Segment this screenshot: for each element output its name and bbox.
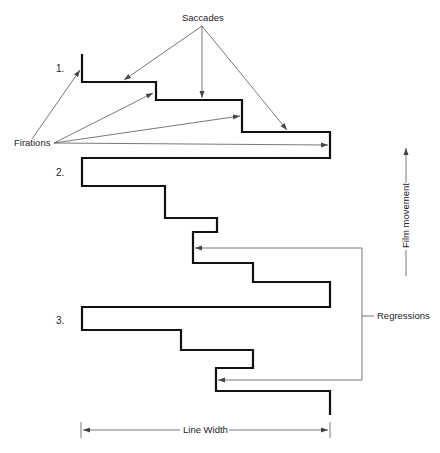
film-movement-label: Film movement	[400, 183, 411, 248]
line-number-3: 3.	[56, 315, 64, 326]
line-number-1: 1.	[56, 63, 64, 74]
line-number-2: 2.	[56, 167, 64, 178]
eye-movement-diagram: Saccades Firations Regressions Line Widt…	[0, 0, 440, 453]
fixations-label: Firations	[14, 137, 51, 148]
regressions-bracket	[195, 248, 374, 380]
reading-line-1-trace	[82, 54, 330, 187]
line-width-label: Line Width	[183, 424, 228, 435]
reading-line-3-trace	[82, 330, 330, 415]
fixations-arrows	[32, 70, 328, 145]
regressions-label: Regressions	[377, 310, 430, 321]
reading-line-2-trace	[82, 186, 330, 331]
saccades-label: Saccades	[182, 12, 224, 23]
saccades-arrows	[124, 26, 287, 130]
